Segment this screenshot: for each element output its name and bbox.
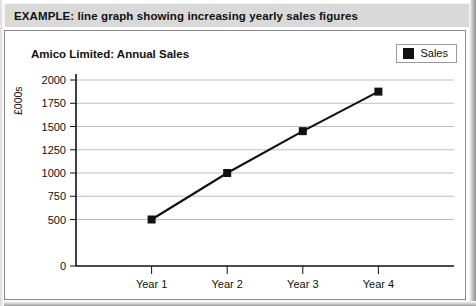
x-tick-label: Year 3 — [287, 278, 318, 290]
example-caption-text: EXAMPLE: line graph showing increasing y… — [5, 10, 358, 22]
series-line-sales — [152, 92, 379, 220]
y-tick-label: 0 — [60, 260, 66, 272]
y-tick-label: 1500 — [42, 121, 66, 133]
page-edge-right — [469, 0, 476, 306]
y-tick-label: 1000 — [42, 167, 66, 179]
plot-area: £000s 050075010001250150017502000Year 1Y… — [5, 31, 467, 301]
line-chart-svg: 050075010001250150017502000Year 1Year 2Y… — [5, 31, 467, 301]
y-tick-label: 750 — [48, 190, 66, 202]
data-point-marker — [374, 88, 382, 96]
x-tick-label: Year 2 — [211, 278, 242, 290]
data-point-marker — [223, 169, 231, 177]
page-edge-bottom — [0, 301, 476, 306]
page-edge-left — [0, 0, 4, 306]
y-tick-label: 500 — [48, 214, 66, 226]
x-tick-label: Year 4 — [363, 278, 394, 290]
data-point-marker — [148, 216, 156, 224]
y-tick-label: 1750 — [42, 97, 66, 109]
data-point-marker — [299, 127, 307, 135]
page-root: EXAMPLE: line graph showing increasing y… — [0, 0, 476, 306]
x-tick-label: Year 1 — [136, 278, 167, 290]
y-tick-label: 1250 — [42, 144, 66, 156]
y-tick-label: 2000 — [42, 74, 66, 86]
example-caption-bar: EXAMPLE: line graph showing increasing y… — [4, 3, 470, 27]
chart-container: Amico Limited: Annual Sales Sales £000s … — [4, 30, 466, 300]
